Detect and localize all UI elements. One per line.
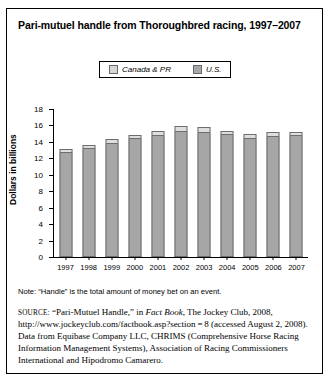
bar-column: 2006 [262, 109, 285, 257]
y-tick-label-0: 0 [39, 253, 43, 262]
y-tick-label-2: 2 [39, 236, 43, 245]
bar-column: 2004 [216, 109, 239, 257]
bar-segment-us [198, 133, 211, 257]
x-tick [296, 257, 297, 260]
chart-source: SOURCE: “Pari-Mutuel Handle,” in Fact Bo… [18, 307, 312, 366]
y-tick-12: 12 [49, 158, 53, 159]
chart-legend: Canada & PR U.S. [99, 61, 231, 78]
bar-column: 1998 [77, 109, 100, 257]
x-tick [227, 257, 228, 260]
stacked-bar [175, 126, 188, 257]
y-tick-0: 0 [49, 257, 53, 258]
y-tick-label-16: 16 [34, 121, 43, 130]
x-tick-label-2000: 2000 [126, 263, 143, 272]
source-italic-title: Fact Book [146, 307, 183, 317]
bar-segment-us [105, 144, 118, 257]
source-keyword: SOURCE: [18, 309, 50, 317]
y-tick-6: 6 [49, 208, 53, 209]
y-tick-label-4: 4 [39, 220, 43, 229]
bar-column: 2003 [193, 109, 216, 257]
y-tick-4: 4 [49, 224, 53, 225]
y-tick-label-10: 10 [34, 170, 43, 179]
x-tick-label-2003: 2003 [196, 263, 213, 272]
legend-label-us: U.S. [206, 65, 222, 74]
legend-label-canada-pr: Canada & PR [122, 65, 171, 74]
x-tick [65, 257, 66, 260]
bar-segment-us [151, 136, 164, 257]
bar-column: 1999 [100, 109, 123, 257]
x-tick-label-2007: 2007 [288, 263, 305, 272]
x-tick [181, 257, 182, 260]
x-tick [157, 257, 158, 260]
bar-column: 2001 [146, 109, 169, 257]
x-tick [111, 257, 112, 260]
y-tick-18: 18 [49, 109, 53, 110]
legend-item-canada-pr: Canada & PR [109, 65, 171, 74]
chart-figure: Pari-mutuel handle from Thoroughbred rac… [6, 8, 323, 374]
y-tick-14: 14 [49, 142, 53, 143]
x-tick-label-2002: 2002 [173, 263, 190, 272]
x-tick-label-1999: 1999 [103, 263, 120, 272]
bar-segment-us [82, 149, 95, 257]
bar-column: 2005 [239, 109, 262, 257]
x-tick [134, 257, 135, 260]
stacked-bar [128, 135, 141, 258]
stacked-bar [82, 145, 95, 257]
page-title: Pari-mutuel handle from Thoroughbred rac… [18, 19, 308, 31]
y-tick-label-12: 12 [34, 154, 43, 163]
stacked-bar [267, 132, 280, 257]
bar-segment-us [244, 139, 257, 257]
bar-segment-us [175, 132, 188, 257]
stacked-bar [244, 134, 257, 257]
x-tick [273, 257, 274, 260]
x-tick-label-2005: 2005 [242, 263, 259, 272]
source-line1: “Pari-Mutuel Handle,” in [50, 307, 146, 317]
x-tick-label-2004: 2004 [219, 263, 236, 272]
chart-note: Note: “Handle” is the total amount of mo… [18, 287, 314, 296]
x-tick [250, 257, 251, 260]
y-axis-title: Dollars in billions [8, 134, 18, 205]
x-tick-label-2001: 2001 [150, 263, 167, 272]
y-tick-16: 16 [49, 125, 53, 126]
stacked-bar [198, 127, 211, 257]
stacked-bar [221, 131, 234, 257]
legend-swatch-icon-us [193, 65, 202, 74]
stacked-bar [290, 132, 303, 257]
legend-swatch-icon-canada-pr [109, 65, 118, 74]
x-tick-label-1998: 1998 [80, 263, 97, 272]
x-tick-label-2006: 2006 [265, 263, 282, 272]
y-tick-2: 2 [49, 241, 53, 242]
x-tick-label-1997: 1997 [57, 263, 74, 272]
bar-segment-us [290, 136, 303, 257]
x-tick [204, 257, 205, 260]
bar-group: 1997199819992000200120022003200420052006… [54, 109, 308, 257]
y-tick-8: 8 [49, 191, 53, 192]
bar-segment-us [267, 137, 280, 257]
stacked-bar [59, 149, 72, 257]
bar-column: 2002 [169, 109, 192, 257]
legend-item-us: U.S. [193, 65, 222, 74]
bar-segment-us [59, 153, 72, 257]
bar-column: 1997 [54, 109, 77, 257]
y-tick-label-14: 14 [34, 137, 43, 146]
bar-column: 2007 [285, 109, 308, 257]
bar-column: 2000 [123, 109, 146, 257]
bar-segment-us [221, 135, 234, 257]
y-tick-label-18: 18 [34, 105, 43, 114]
y-tick-label-8: 8 [39, 187, 43, 196]
y-tick-label-6: 6 [39, 203, 43, 212]
bar-segment-us [128, 139, 141, 257]
y-tick-10: 10 [49, 175, 53, 176]
plot-area: Dollars in billions 181614121086420 1997… [7, 93, 324, 278]
chart-axes: 181614121086420 199719981999200020012002… [53, 109, 308, 257]
stacked-bar [105, 139, 118, 257]
stacked-bar [151, 131, 164, 257]
x-tick [88, 257, 89, 260]
